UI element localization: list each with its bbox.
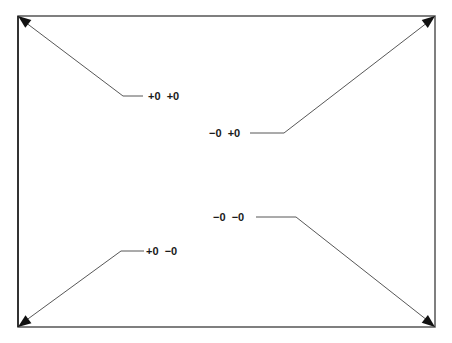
leader-line-bottom-left [21,251,144,324]
callout-label-top-left: +0 +0 [148,90,179,102]
leader-line-bottom-right [256,217,432,324]
leader-line-top-left [21,19,143,96]
callout-label-bottom-right: −0 −0 [213,211,244,223]
arrowhead-icon-top-left [18,16,31,28]
arrowhead-icon-bottom-left [18,315,31,327]
arrowhead-icon-bottom-right [422,315,435,327]
callout-label-bottom-left: +0 −0 [146,245,177,257]
diagram-canvas [0,0,452,343]
arrowhead-icon-top-right [422,16,435,28]
leader-line-top-right [250,19,432,133]
callout-label-top-right: −0 +0 [209,127,240,139]
